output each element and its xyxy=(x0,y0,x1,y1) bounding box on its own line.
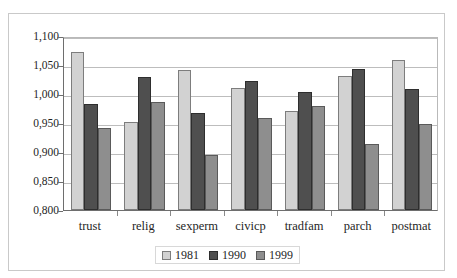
figure-caption-clip: and 1999. xyxy=(0,0,457,9)
x-axis-tick-mark xyxy=(117,211,118,216)
bar-parch-1981 xyxy=(338,76,352,210)
x-axis-tick-mark xyxy=(331,211,332,216)
chart-legend-items: 198119901999 xyxy=(155,246,300,264)
bar-trust-1999 xyxy=(98,128,112,210)
bar-civicp-1990 xyxy=(245,81,259,210)
chart-legend: 198119901999 xyxy=(9,246,446,264)
figure-frame: 1,1001,0501,0000,9500,9000,8500,800 trus… xyxy=(8,13,445,271)
bar-relig-1999 xyxy=(151,102,165,210)
x-axis-tick-label-trust: trust xyxy=(63,219,117,233)
x-axis-tick-mark xyxy=(170,211,171,216)
bar-tradfam-1981 xyxy=(285,111,299,210)
bar-sexperm-1990 xyxy=(191,113,205,210)
x-axis-tick-mark xyxy=(384,211,385,216)
bar-postmat-1981 xyxy=(392,60,406,210)
legend-label-1990: 1990 xyxy=(222,249,246,261)
legend-item-1990[interactable]: 1990 xyxy=(209,249,246,261)
bar-civicp-1981 xyxy=(231,88,245,210)
x-axis-tick-label-parch: parch xyxy=(331,219,385,233)
gridline xyxy=(64,38,437,39)
bar-parch-1990 xyxy=(352,69,366,210)
y-axis-tick-label: 0,800 xyxy=(11,205,59,217)
y-axis-tick-label: 0,850 xyxy=(11,176,59,188)
x-axis-tick-label-postmat: postmat xyxy=(384,219,438,233)
y-axis-tick-label: 1,050 xyxy=(11,60,59,72)
x-axis-tick-mark xyxy=(224,211,225,216)
legend-swatch-icon-1981 xyxy=(162,251,171,260)
legend-label-1981: 1981 xyxy=(175,249,199,261)
y-axis-tick-label: 1,000 xyxy=(11,89,59,101)
figure-caption-text: and 1999. xyxy=(0,0,457,2)
bar-postmat-1990 xyxy=(405,89,419,210)
bar-tradfam-1990 xyxy=(298,92,312,210)
bar-parch-1999 xyxy=(365,144,379,210)
y-axis-tick-label: 1,100 xyxy=(11,31,59,43)
x-axis-tick-label-civicp: civicp xyxy=(224,219,278,233)
legend-item-1981[interactable]: 1981 xyxy=(162,249,199,261)
bar-postmat-1999 xyxy=(419,124,433,210)
legend-label-1999: 1999 xyxy=(269,249,293,261)
x-axis-tick-label-sexperm: sexperm xyxy=(170,219,224,233)
x-axis-tick-label-tradfam: tradfam xyxy=(277,219,331,233)
legend-swatch-icon-1990 xyxy=(209,251,218,260)
y-axis-tick-label: 0,900 xyxy=(11,147,59,159)
bar-relig-1981 xyxy=(124,122,138,210)
x-axis-labels: trustreligsexpermcivicptradfamparchpostm… xyxy=(63,219,438,239)
legend-item-1999[interactable]: 1999 xyxy=(256,249,293,261)
bar-trust-1981 xyxy=(71,52,85,210)
plot-area xyxy=(63,37,438,211)
bar-tradfam-1999 xyxy=(312,106,326,210)
bar-sexperm-1999 xyxy=(205,155,219,210)
bar-relig-1990 xyxy=(138,77,152,210)
gridline xyxy=(64,67,437,68)
y-axis-tick-label: 0,950 xyxy=(11,118,59,130)
x-axis-tick-mark xyxy=(277,211,278,216)
y-axis: 1,1001,0501,0000,9500,9000,8500,800 xyxy=(9,37,59,212)
bar-civicp-1999 xyxy=(258,118,272,210)
bar-chart: 1,1001,0501,0000,9500,9000,8500,800 trus… xyxy=(9,14,446,272)
y-axis-tick-mark xyxy=(57,211,63,212)
bar-sexperm-1981 xyxy=(178,70,192,210)
x-axis-tick-label-relig: relig xyxy=(117,219,171,233)
bar-trust-1990 xyxy=(84,104,98,210)
legend-swatch-icon-1999 xyxy=(256,251,265,260)
